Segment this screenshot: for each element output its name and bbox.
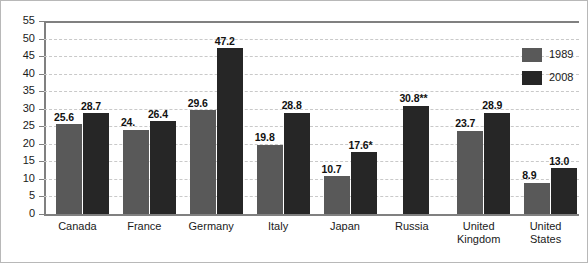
bar-group: 29.647.2 <box>190 21 244 214</box>
bar-group: 25.628.7 <box>56 21 110 214</box>
bar-value-label: 28.7 <box>81 101 101 112</box>
bar-1989 <box>524 183 550 214</box>
y-axis-tick-label: 15 <box>1 155 35 166</box>
y-axis-tick-label: 55 <box>1 15 35 26</box>
bar-group: 23.728.9 <box>457 21 511 214</box>
bar-value-label: 30.8** <box>399 93 427 104</box>
bar-2008 <box>83 113 109 214</box>
bar-group: 19.828.8 <box>257 21 311 214</box>
bar-1989 <box>257 145 283 214</box>
bar-group: 10.717.6* <box>324 21 378 214</box>
bar-group: 30.8** <box>390 21 444 214</box>
y-axis-tick-label: 0 <box>1 208 35 219</box>
bar-value-label: 47.2 <box>215 36 235 47</box>
bar-2008 <box>217 48 243 214</box>
y-axis-tick-label: 25 <box>1 120 35 131</box>
y-axis-tick-label: 20 <box>1 138 35 149</box>
y-axis-tick-label: 35 <box>1 85 35 96</box>
bar-value-label: 23.7 <box>455 118 475 129</box>
legend-item[interactable]: 2008 <box>522 70 582 85</box>
y-axis-tick-label: 10 <box>1 173 35 184</box>
bar-value-label: 24. <box>121 117 135 128</box>
bar-2008 <box>403 106 429 214</box>
y-axis-tick-label: 30 <box>1 103 35 114</box>
y-axis-tick-label: 50 <box>1 33 35 44</box>
legend-swatch <box>522 71 542 85</box>
legend-item[interactable]: 1989 <box>522 47 582 62</box>
bar-value-label: 29.6 <box>188 98 208 109</box>
bar-1989 <box>123 130 149 214</box>
axis-bottom-rule <box>44 214 579 216</box>
bar-value-label: 17.6* <box>349 140 373 151</box>
x-axis-category-label: UnitedStates <box>503 220 588 246</box>
bar-value-label: 26.4 <box>148 109 168 120</box>
bar-value-label: 13.0 <box>549 156 569 167</box>
bar-2008 <box>351 152 377 214</box>
legend-label: 2008 <box>549 72 573 83</box>
bar-value-label: 28.9 <box>482 100 502 111</box>
bar-1989 <box>324 176 350 214</box>
bar-1989 <box>190 110 216 214</box>
bar-value-label: 8.9 <box>522 170 536 181</box>
bar-2008 <box>284 113 310 214</box>
plot-area: 25.628.724.26.429.647.219.828.810.717.6*… <box>44 21 579 214</box>
y-axis-tick-label: 40 <box>1 68 35 79</box>
y-axis-tick-label: 5 <box>1 190 35 201</box>
bar-2008 <box>551 168 577 214</box>
chart-legend: 19892008 <box>522 47 582 93</box>
legend-swatch <box>522 48 542 62</box>
bar-group: 24.26.4 <box>123 21 177 214</box>
chart-figure: 0510152025303540455055 25.628.724.26.429… <box>0 0 588 263</box>
bar-value-label: 19.8 <box>255 132 275 143</box>
legend-label: 1989 <box>549 49 573 60</box>
bar-2008 <box>484 113 510 214</box>
bar-1989 <box>56 124 82 214</box>
y-axis-tick-label: 45 <box>1 50 35 61</box>
category-label-line: United <box>503 220 588 233</box>
bar-value-label: 10.7 <box>322 164 342 175</box>
bar-2008 <box>150 121 176 214</box>
bar-value-label: 28.8 <box>282 100 302 111</box>
category-label-line: States <box>503 233 588 246</box>
bar-value-label: 25.6 <box>54 112 74 123</box>
bar-1989 <box>457 131 483 214</box>
